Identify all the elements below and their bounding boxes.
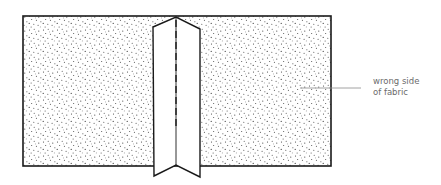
label-line-2: of fabric — [373, 87, 419, 98]
seam-allowance-strip — [153, 17, 200, 177]
label-line-1: wrong side — [373, 76, 419, 87]
wrong-side-label: wrong side of fabric — [373, 76, 419, 98]
